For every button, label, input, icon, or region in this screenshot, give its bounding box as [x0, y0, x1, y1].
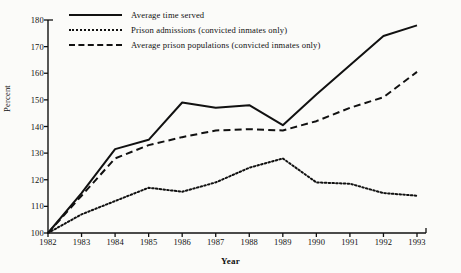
plot-area [0, 0, 461, 273]
chart-figure: Percent 100110120130140150160170180 1982… [0, 0, 461, 273]
series-line-dashed [48, 72, 417, 233]
series-line-dotted [48, 158, 417, 233]
series-line-solid [48, 25, 417, 233]
